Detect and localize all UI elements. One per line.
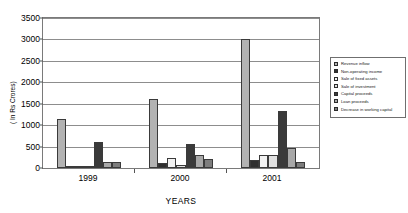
legend-item[interactable]: Loan proceeds — [334, 99, 403, 104]
bar — [167, 158, 176, 168]
legend-item-label: Revenue inflow — [341, 61, 370, 66]
y-axis-tick-label: 3500 — [21, 13, 40, 23]
bar — [250, 160, 259, 168]
legend-item[interactable]: Sale of investment — [334, 84, 403, 89]
y-axis-tick-label: 1500 — [21, 99, 40, 109]
legend-swatch-icon — [334, 99, 338, 103]
bar-group — [241, 18, 305, 168]
bar — [94, 142, 103, 168]
y-axis-tick-mark — [40, 168, 43, 169]
legend-item[interactable]: Non-operating income — [334, 69, 403, 74]
legend-swatch-icon — [334, 77, 338, 81]
y-axis-label: ( In Rs Crores) — [9, 112, 16, 124]
y-axis-tick-mark — [40, 146, 43, 147]
legend-item[interactable]: Revenue inflow — [334, 61, 403, 66]
bar-group — [57, 18, 121, 168]
legend-item-label: Non-operating income — [341, 69, 382, 74]
legend-item-label: Sale of investment — [341, 84, 375, 89]
y-axis-tick-label: 1000 — [21, 120, 40, 130]
bar — [103, 162, 112, 168]
x-axis-category-label: 2001 — [226, 173, 318, 183]
y-axis-tick-mark — [40, 82, 43, 83]
x-axis-category-label: 2000 — [134, 173, 226, 183]
legend-swatch-icon — [334, 69, 338, 73]
legend-swatch-icon — [334, 92, 338, 96]
y-axis-tick-mark — [40, 18, 43, 19]
y-axis-tick-label: 2500 — [21, 56, 40, 66]
legend-item[interactable]: Capital proceeds — [334, 91, 403, 96]
bar — [158, 163, 167, 168]
y-axis-tick-label: 500 — [26, 142, 40, 152]
bar — [268, 155, 277, 168]
bar — [186, 144, 195, 168]
chart-legend: Revenue inflowNon-operating incomeSale o… — [330, 57, 406, 118]
legend-item[interactable]: Sale of fixed assets — [334, 76, 403, 81]
legend-item-label: Capital proceeds — [341, 91, 372, 96]
legend-swatch-icon — [334, 84, 338, 88]
legend-swatch-icon — [334, 107, 338, 111]
plot-area: 0500100015002000250030003500 — [42, 17, 320, 169]
bar — [75, 166, 84, 168]
bar — [84, 166, 93, 168]
x-axis-label: YEARS — [42, 196, 320, 206]
bar — [112, 162, 121, 168]
chart-figure: ( In Rs Crores) 050010001500200025003000… — [0, 0, 408, 213]
y-axis-tick-mark — [40, 39, 43, 40]
bar — [259, 155, 268, 168]
legend-swatch-icon — [334, 62, 338, 66]
bar — [149, 99, 158, 168]
y-axis-tick-label: 2000 — [21, 77, 40, 87]
bar — [287, 148, 296, 168]
bar — [296, 162, 305, 168]
bar — [176, 165, 185, 168]
y-axis-tick-mark — [40, 60, 43, 61]
y-axis-tick-label: 3000 — [21, 34, 40, 44]
x-axis-category-label: 1999 — [42, 173, 134, 183]
legend-item-label: Sale of fixed assets — [341, 76, 377, 81]
bar — [278, 111, 287, 168]
legend-item[interactable]: Decrease in working capital — [334, 107, 403, 112]
legend-item-label: Loan proceeds — [341, 99, 369, 104]
y-axis-tick-mark — [40, 103, 43, 104]
x-axis-tick-mark — [226, 169, 227, 173]
x-axis-tick-mark — [134, 169, 135, 173]
legend-item-label: Decrease in working capital — [341, 107, 392, 112]
bar — [241, 39, 250, 168]
bar-group — [149, 18, 213, 168]
bar — [66, 166, 75, 168]
y-axis-tick-mark — [40, 125, 43, 126]
bar — [57, 119, 66, 168]
bar — [195, 155, 204, 168]
bar — [204, 159, 213, 168]
